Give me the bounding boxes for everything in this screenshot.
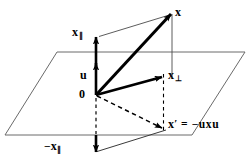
label-x-parallel-subscript: ∥ xyxy=(78,31,83,40)
vector-x-prime xyxy=(97,96,162,128)
label-u-base: u xyxy=(80,68,87,82)
label-x-perp-subscript: ⊥ xyxy=(174,74,182,83)
construction-line-negxpar-to-xprime xyxy=(97,130,166,152)
label-origin-base: 0 xyxy=(79,87,85,101)
label-u: u xyxy=(80,69,87,81)
label-x-perp: x⊥ xyxy=(168,69,182,83)
label-equation-rhs: uxu xyxy=(199,118,219,130)
label-equation-minus: − xyxy=(192,118,199,130)
figure-canvas xyxy=(0,0,249,162)
label-x-base: x xyxy=(175,5,181,19)
label-x-parallel: x∥ xyxy=(72,26,83,40)
label-equals-sign: = xyxy=(181,118,188,130)
label-neg-x-parallel-subscript: ∥ xyxy=(57,145,62,154)
label-neg-x-parallel: −x∥ xyxy=(44,140,61,154)
label-x-prime-equation: x′ = −uxu xyxy=(168,118,219,131)
label-neg-x-parallel-minus: − xyxy=(44,140,51,152)
vector-reflection-figure: x∥ u 0 x x⊥ x′ = −uxu −x∥ xyxy=(0,0,249,162)
label-origin: 0 xyxy=(79,88,85,100)
label-x: x xyxy=(175,6,181,18)
